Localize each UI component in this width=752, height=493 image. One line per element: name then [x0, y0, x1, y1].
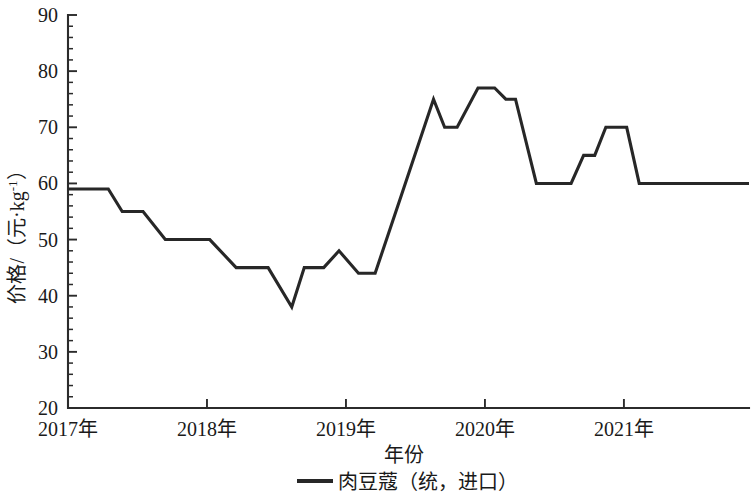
- x-tick-label-2017: 2017年: [38, 418, 98, 440]
- x-tick-label-2019: 2019年: [316, 418, 376, 440]
- y-tick-label-20: 20: [38, 397, 58, 419]
- y-axis-tick-labels: 2030405060708090: [38, 4, 58, 419]
- series-line-nutmeg: [68, 88, 749, 307]
- y-tick-label-30: 30: [38, 341, 58, 363]
- y-tick-label-40: 40: [38, 285, 58, 307]
- y-tick-label-70: 70: [38, 116, 58, 138]
- x-tick-label-2020: 2020年: [455, 418, 515, 440]
- y-axis-title: 价格/（元·kg-1）: [5, 160, 29, 303]
- series-group: [68, 88, 749, 307]
- x-axis-title-text: 年份: [384, 444, 424, 466]
- legend: 肉豆蔻（统，进口）: [297, 471, 518, 493]
- y-tick-label-60: 60: [38, 172, 58, 194]
- y-tick-label-90: 90: [38, 4, 58, 26]
- axes: [68, 15, 749, 408]
- y-tick-label-50: 50: [38, 229, 58, 251]
- y-axis-ticks: [68, 15, 77, 408]
- x-axis-ticks: [207, 399, 624, 408]
- x-tick-label-2018: 2018年: [177, 418, 237, 440]
- x-tick-label-2021: 2021年: [594, 418, 654, 440]
- legend-label-text: 肉豆蔻（统，进口）: [338, 471, 518, 493]
- price-line-chart: 2030405060708090 2017年2018年2019年2020年202…: [0, 0, 752, 493]
- y-tick-label-80: 80: [38, 60, 58, 82]
- axis-lines: [68, 15, 749, 408]
- y-axis-title-text: 价格/（元·kg-1）: [5, 160, 29, 303]
- x-axis-tick-labels: 2017年2018年2019年2020年2021年: [38, 418, 654, 440]
